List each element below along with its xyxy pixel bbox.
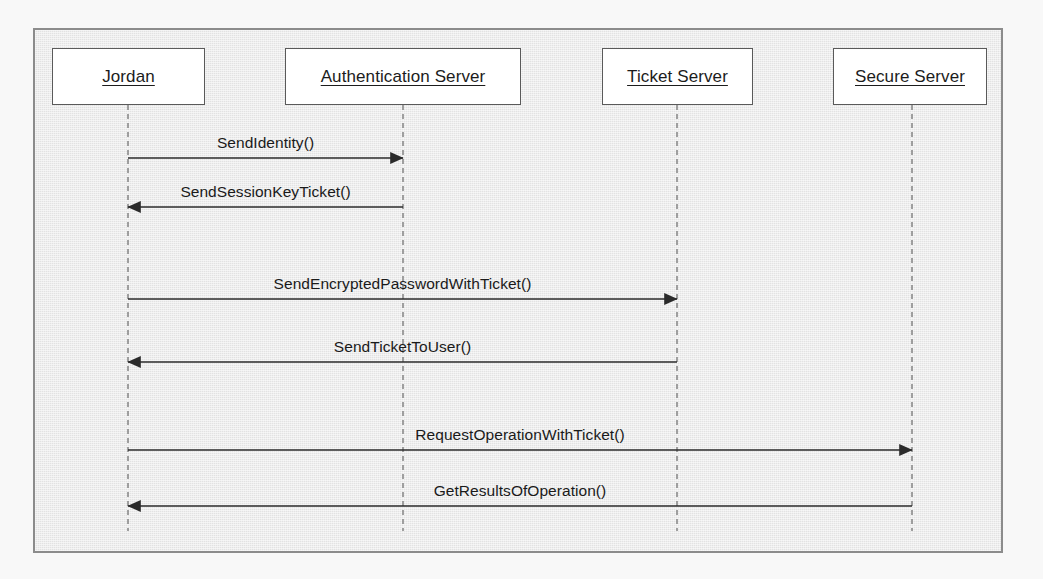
message-label-5: RequestOperationWithTicket() xyxy=(415,426,624,444)
participant-label: Authentication Server xyxy=(321,67,486,87)
message-label-4: SendTicketToUser() xyxy=(334,338,471,356)
message-label-3: SendEncryptedPasswordWithTicket() xyxy=(274,275,532,293)
message-label-2: SendSessionKeyTicket() xyxy=(180,183,350,201)
participant-box-ticket[interactable]: Ticket Server xyxy=(602,48,753,105)
participant-box-auth[interactable]: Authentication Server xyxy=(285,48,521,105)
sequence-diagram-canvas: JordanAuthentication ServerTicket Server… xyxy=(0,0,1043,579)
message-label-1: SendIdentity() xyxy=(217,134,314,152)
participant-box-secure[interactable]: Secure Server xyxy=(833,48,987,105)
participant-label: Jordan xyxy=(102,67,155,87)
participant-box-jordan[interactable]: Jordan xyxy=(52,48,205,105)
participant-label: Secure Server xyxy=(855,67,965,87)
lifelines-group xyxy=(128,105,912,531)
participant-label: Ticket Server xyxy=(627,67,728,87)
message-label-6: GetResultsOfOperation() xyxy=(434,482,607,500)
message-arrows-group xyxy=(128,158,912,506)
